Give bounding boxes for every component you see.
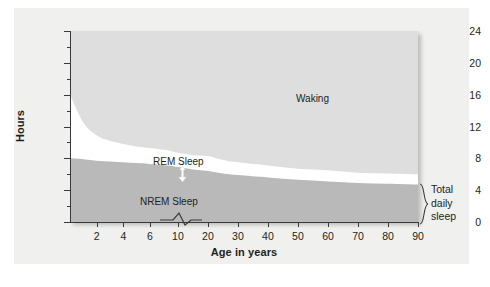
- x-tick-label-90: 90: [412, 230, 424, 242]
- y-tick-minor-14: [67, 111, 71, 112]
- sleep-across-lifespan-figure: Waking REM Sleep NREM Sleep Hours Age in…: [0, 0, 490, 287]
- y-tick-label-20: 20: [469, 57, 481, 69]
- y-tick-label-12: 12: [469, 121, 481, 133]
- x-tick-label-80: 80: [382, 230, 394, 242]
- y-tick-minor-22: [67, 47, 71, 48]
- y-tick-8: [64, 158, 71, 159]
- y-tick-label-0: 0: [475, 216, 481, 228]
- x-tick-60: [328, 222, 329, 227]
- x-axis-break-icon: [160, 211, 202, 227]
- x-tick-50: [298, 222, 299, 227]
- x-tick-40: [268, 222, 269, 227]
- y-tick-20: [64, 63, 71, 64]
- x-tick-label-60: 60: [322, 230, 334, 242]
- x-tick-6: [150, 222, 151, 227]
- total-daily-sleep-label-line-2: sleep: [431, 210, 456, 224]
- x-axis: [70, 222, 418, 223]
- x-tick-label-40: 40: [262, 230, 274, 242]
- y-tick-minor-2: [67, 206, 71, 207]
- y-tick-minor-10: [67, 142, 71, 143]
- total-daily-sleep-label-line-1: daily: [431, 197, 456, 211]
- x-tick-label-10: 10: [172, 230, 184, 242]
- x-tick-label-6: 6: [147, 230, 153, 242]
- x-tick-30: [238, 222, 239, 227]
- y-axis-title: Hours: [14, 110, 26, 142]
- y-tick-label-4: 4: [475, 184, 481, 196]
- y-tick-label-8: 8: [475, 152, 481, 164]
- stacked-area-layers: [70, 31, 418, 222]
- x-tick-label-20: 20: [202, 230, 214, 242]
- x-tick-label-50: 50: [292, 230, 304, 242]
- y-tick-16: [64, 95, 71, 96]
- y-tick-minor-6: [67, 174, 71, 175]
- total-daily-sleep-label: Totaldailysleep: [431, 183, 456, 224]
- x-tick-20: [208, 222, 209, 227]
- area-label-nrem: NREM Sleep: [140, 196, 198, 207]
- x-tick-80: [388, 222, 389, 227]
- x-tick-label-30: 30: [232, 230, 244, 242]
- x-tick-2: [97, 222, 98, 227]
- y-tick-minor-18: [67, 79, 71, 80]
- x-tick-label-4: 4: [120, 230, 126, 242]
- y-axis: [70, 31, 71, 222]
- total-daily-sleep-bracket-icon: [419, 183, 429, 225]
- y-tick-label-16: 16: [469, 89, 481, 101]
- x-tick-label-2: 2: [94, 230, 100, 242]
- y-tick-label-24: 24: [469, 25, 481, 37]
- x-tick-4: [123, 222, 124, 227]
- x-tick-label-70: 70: [352, 230, 364, 242]
- rem-sleep-pointer-icon: [178, 166, 187, 182]
- x-axis-title: Age in years: [70, 246, 418, 258]
- area-paths: [70, 31, 418, 222]
- total-daily-sleep-label-line-0: Total: [431, 183, 456, 197]
- y-tick-4: [64, 190, 71, 191]
- plot-area: [70, 31, 418, 222]
- x-tick-70: [358, 222, 359, 227]
- y-tick-24: [64, 31, 71, 32]
- y-tick-12: [64, 127, 71, 128]
- area-label-waking: Waking: [296, 93, 329, 104]
